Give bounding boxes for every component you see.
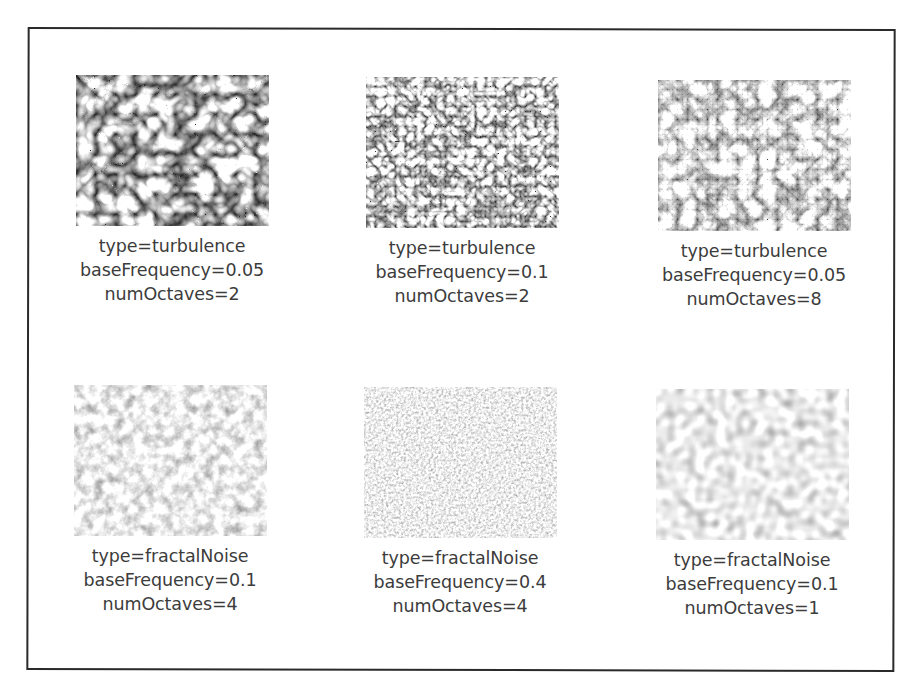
- panel-fractalnoise-0.1-4: type=fractalNoise baseFrequency=0.1 numO…: [55, 385, 285, 616]
- num-octaves-label: numOctaves=4: [345, 594, 575, 618]
- type-label: type=turbulence: [347, 236, 577, 260]
- num-octaves-label: numOctaves=2: [347, 284, 577, 308]
- base-frequency-label: baseFrequency=0.1: [637, 572, 867, 596]
- panel-fractalnoise-0.1-1: type=fractalNoise baseFrequency=0.1 numO…: [637, 389, 867, 620]
- noise-swatch: [74, 385, 267, 536]
- num-octaves-label: numOctaves=2: [57, 282, 287, 306]
- type-label: type=fractalNoise: [637, 548, 867, 572]
- num-octaves-label: numOctaves=1: [637, 596, 867, 620]
- num-octaves-label: numOctaves=8: [639, 287, 869, 311]
- type-label: type=turbulence: [639, 239, 869, 263]
- panel-fractalnoise-0.4-4: type=fractalNoise baseFrequency=0.4 numO…: [345, 387, 575, 618]
- base-frequency-label: baseFrequency=0.05: [639, 263, 869, 287]
- noise-swatch: [364, 387, 557, 538]
- base-frequency-label: baseFrequency=0.1: [347, 260, 577, 284]
- type-label: type=fractalNoise: [345, 546, 575, 570]
- base-frequency-label: baseFrequency=0.4: [345, 570, 575, 594]
- noise-swatch: [366, 77, 559, 228]
- panel-caption: type=turbulence baseFrequency=0.1 numOct…: [347, 236, 577, 308]
- noise-swatch: [76, 75, 269, 226]
- type-label: type=turbulence: [57, 234, 287, 258]
- num-octaves-label: numOctaves=4: [55, 592, 285, 616]
- panel-turbulence-0.1-2: type=turbulence baseFrequency=0.1 numOct…: [347, 77, 577, 308]
- panel-caption: type=turbulence baseFrequency=0.05 numOc…: [639, 239, 869, 311]
- panel-caption: type=fractalNoise baseFrequency=0.4 numO…: [345, 546, 575, 618]
- noise-swatch: [656, 389, 849, 540]
- panel-turbulence-0.05-8: type=turbulence baseFrequency=0.05 numOc…: [639, 80, 869, 311]
- type-label: type=fractalNoise: [55, 544, 285, 568]
- panel-caption: type=fractalNoise baseFrequency=0.1 numO…: [55, 544, 285, 616]
- panel-turbulence-0.05-2: type=turbulence baseFrequency=0.05 numOc…: [57, 75, 287, 306]
- base-frequency-label: baseFrequency=0.05: [57, 258, 287, 282]
- panel-caption: type=turbulence baseFrequency=0.05 numOc…: [57, 234, 287, 306]
- noise-swatch: [658, 80, 851, 231]
- base-frequency-label: baseFrequency=0.1: [55, 568, 285, 592]
- panel-caption: type=fractalNoise baseFrequency=0.1 numO…: [637, 548, 867, 620]
